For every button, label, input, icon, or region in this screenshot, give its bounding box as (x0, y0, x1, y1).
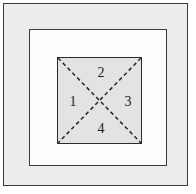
region-label-3: 3 (120, 95, 136, 109)
region-label-4: 4 (93, 122, 109, 136)
outer-frame-square: 1 2 3 4 (3, 3, 188, 186)
middle-white-square: 1 2 3 4 (29, 29, 167, 166)
region-label-2: 2 (93, 66, 109, 80)
inner-gray-square: 1 2 3 4 (57, 57, 142, 144)
region-label-1: 1 (65, 95, 81, 109)
figure-canvas: 1 2 3 4 (0, 0, 196, 194)
